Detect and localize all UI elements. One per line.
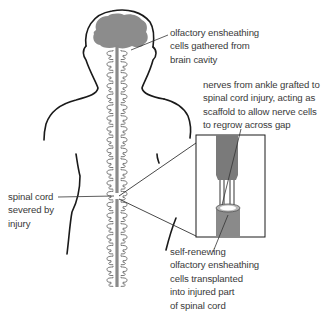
injury-gap (113, 193, 121, 199)
label-olfactory-cells: olfactory ensheathing cells gathered fro… (170, 26, 259, 66)
spinal-injury-diagram (0, 0, 328, 315)
magnified-view (119, 135, 265, 237)
brain-illustration (93, 14, 147, 49)
label-transplanted-cells: self-renewing olfactory ensheathing cell… (170, 245, 259, 312)
label-nerve-graft: nerves from ankle grafted to spinal cord… (203, 78, 320, 132)
spinal-column (107, 45, 127, 287)
label-severed-cord: spinal cord severed by injury (8, 190, 54, 230)
